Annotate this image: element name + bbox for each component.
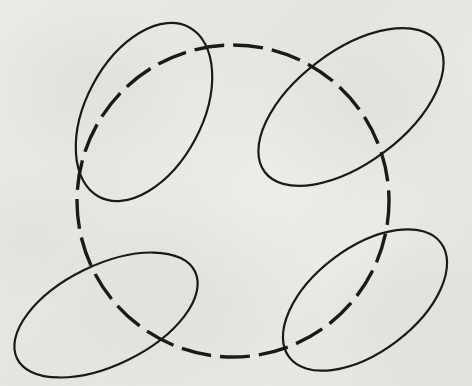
ellipse-top-right: [231, 0, 471, 217]
ellipse-bottom-left: [0, 227, 217, 386]
ellipse-bottom-right: [258, 201, 472, 386]
figure-drawing: [0, 0, 472, 386]
ellipse-top-left: [48, 0, 241, 224]
figure-canvas: [0, 0, 472, 386]
